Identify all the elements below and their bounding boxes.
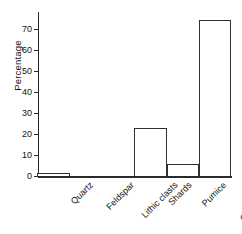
- x-axis-tick-labels: QuartzFeldsparLithic clastsShardsPumiceG…: [38, 180, 232, 234]
- y-axis-tick-labels: 010203040506070: [0, 0, 38, 234]
- y-tick-label: 70: [22, 24, 32, 33]
- y-tick-label: 20: [22, 130, 32, 139]
- bar-slot: [70, 12, 102, 176]
- y-tick-label: 60: [22, 45, 32, 54]
- plot-area: [38, 12, 232, 178]
- x-axis-line: [38, 176, 232, 178]
- bar-slot: [167, 12, 199, 176]
- x-tick-label: Pumice: [199, 180, 227, 208]
- bar-slot: [38, 12, 70, 176]
- bar-slot: [135, 12, 167, 176]
- bar: [37, 173, 69, 176]
- bar: [199, 20, 231, 176]
- y-tick-label: 10: [22, 151, 32, 160]
- y-tick-label: 0: [27, 172, 32, 181]
- bar-chart: Percentage 010203040506070 QuartzFeldspa…: [0, 0, 242, 234]
- bar: [167, 164, 199, 177]
- y-tick-label: 40: [22, 88, 32, 97]
- bar: [134, 128, 166, 176]
- x-tick-label: Groundmass: [238, 180, 242, 224]
- bar-slot: [200, 12, 232, 176]
- bar-series: [38, 12, 232, 176]
- x-tick-label: Feldspar: [104, 180, 136, 212]
- y-tick-label: 30: [22, 109, 32, 118]
- x-tick-label: Quartz: [69, 180, 95, 206]
- y-tick-label: 50: [22, 67, 32, 76]
- bar-slot: [103, 12, 135, 176]
